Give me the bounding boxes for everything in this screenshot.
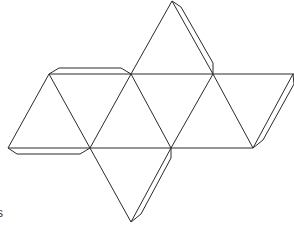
net-edges xyxy=(8,1,294,222)
zigzag-edges xyxy=(8,74,293,148)
bottom-apex-face xyxy=(90,148,171,222)
tab-top-left xyxy=(49,68,131,74)
tab-bottom-left xyxy=(8,148,90,154)
top-apex-face xyxy=(131,1,213,74)
octahedron-net-diagram xyxy=(0,0,294,231)
